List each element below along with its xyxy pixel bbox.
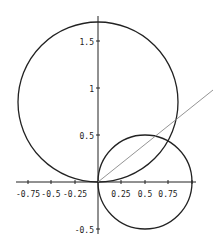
y-tick-label: 0.5 <box>80 132 95 141</box>
x-tick-label: -0.5 <box>41 190 60 199</box>
y-tick-label: 1 <box>89 85 94 94</box>
chart-svg: -0.75 -0.5 -0.25 0.25 0.5 0.75 1.5 1 0.5… <box>0 0 221 248</box>
y-tick-label: -0.5 <box>75 226 94 235</box>
x-tick-label: -0.75 <box>16 190 40 199</box>
y-tick-label: 1.5 <box>80 38 95 47</box>
ray-line <box>98 90 213 182</box>
x-tick-label: -0.25 <box>63 190 87 199</box>
plot-area: -0.75 -0.5 -0.25 0.25 0.5 0.75 1.5 1 0.5… <box>0 0 221 248</box>
x-tick-label: 0.75 <box>158 190 177 199</box>
x-tick-label: 0.5 <box>138 190 153 199</box>
x-tick-label: 0.25 <box>111 190 130 199</box>
